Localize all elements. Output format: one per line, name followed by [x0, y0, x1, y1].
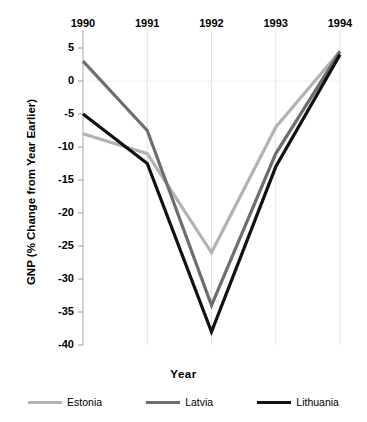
- gnp-line-chart: 19901991199219931994 50-5-10-15-20-25-30…: [0, 0, 367, 422]
- legend-swatch-latvia: [146, 401, 180, 404]
- legend-swatch-estonia: [28, 401, 62, 404]
- legend-item-estonia[interactable]: Estonia: [28, 396, 102, 408]
- axis-ticks: [78, 48, 83, 345]
- chart-legend: EstoniaLatviaLithuania: [0, 390, 367, 414]
- legend-item-latvia[interactable]: Latvia: [146, 396, 213, 408]
- legend-swatch-lithuania: [257, 401, 291, 404]
- x-axis-title: Year: [0, 368, 367, 380]
- legend-label-latvia: Latvia: [185, 396, 213, 408]
- plot-area: [0, 0, 367, 422]
- legend-item-lithuania[interactable]: Lithuania: [257, 396, 339, 408]
- legend-label-lithuania: Lithuania: [296, 396, 339, 408]
- legend-label-estonia: Estonia: [67, 396, 102, 408]
- gridlines: [83, 30, 340, 345]
